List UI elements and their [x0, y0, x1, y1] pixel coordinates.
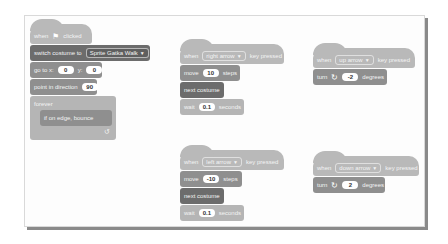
go-to-xy-block[interactable]: go to x: 0 y: 0 [30, 62, 102, 78]
loop-arrow-icon: ↺ [30, 126, 116, 138]
clicked-label: clicked [63, 33, 81, 39]
key-dropdown[interactable]: down arrow▼ [335, 163, 381, 173]
wait-label: wait [184, 210, 195, 216]
when-label: when [317, 165, 331, 171]
key-value: left arrow [206, 159, 231, 165]
costume-dropdown[interactable]: Sprite Gatka Walk▼ [86, 48, 149, 58]
wait-seconds-block[interactable]: wait 0.1 seconds [180, 99, 244, 115]
direction-input[interactable]: 90 [82, 83, 98, 91]
script-when-flag-clicked[interactable]: when ⚑ clicked switch costume to Sprite … [30, 24, 150, 140]
key-value: up arrow [339, 57, 362, 63]
chevron-down-icon: ▼ [233, 159, 238, 165]
when-label: when [317, 57, 331, 63]
costume-value: Sprite Gatka Walk [90, 50, 138, 56]
key-dropdown[interactable]: up arrow▼ [335, 55, 373, 65]
key-dropdown[interactable]: left arrow▼ [202, 157, 242, 167]
steps-label: steps [223, 176, 237, 182]
chevron-down-icon: ▼ [372, 165, 377, 171]
wait-seconds-block[interactable]: wait 0.1 seconds [180, 205, 244, 221]
when-key-pressed-block[interactable]: when up arrow▼ key pressed [313, 48, 415, 68]
move-label: move [184, 176, 199, 182]
steps-input[interactable]: 10 [203, 69, 219, 77]
key-value: down arrow [339, 165, 370, 171]
when-flag-clicked-block[interactable]: when ⚑ clicked [30, 24, 92, 44]
seconds-input[interactable]: 0.1 [199, 103, 215, 111]
script-right-arrow[interactable]: when right arrow▼ key pressed move 10 st… [180, 44, 284, 115]
move-steps-block[interactable]: move -10 steps [180, 171, 242, 187]
seconds-input[interactable]: 0.1 [199, 209, 215, 217]
green-flag-icon: ⚑ [52, 32, 59, 41]
next-costume-block[interactable]: next costume [180, 82, 224, 98]
rotate-clockwise-icon: ↻ [331, 181, 338, 190]
when-label: when [184, 53, 198, 59]
when-key-pressed-block[interactable]: when down arrow▼ key pressed [313, 156, 419, 176]
switch-costume-label: switch costume to [34, 50, 82, 56]
key-dropdown[interactable]: right arrow▼ [202, 51, 245, 61]
next-costume-label: next costume [184, 193, 220, 199]
next-costume-label: next costume [184, 87, 220, 93]
point-label: point in direction [34, 84, 78, 90]
seconds-label: seconds [219, 210, 241, 216]
degrees-input[interactable]: -2 [342, 73, 358, 81]
switch-costume-block[interactable]: switch costume to Sprite Gatka Walk▼ [30, 45, 150, 61]
y-label: y: [78, 67, 83, 73]
forever-label: forever [30, 98, 116, 110]
key-pressed-label: key pressed [385, 165, 417, 171]
rotate-clockwise-icon: ↻ [331, 73, 338, 82]
key-pressed-label: key pressed [250, 53, 282, 59]
turn-degrees-block[interactable]: turn ↻ 2 degrees [313, 177, 385, 193]
script-left-arrow[interactable]: when left arrow▼ key pressed move -10 st… [180, 150, 284, 221]
script-down-arrow[interactable]: when down arrow▼ key pressed turn ↻ 2 de… [313, 156, 419, 193]
seconds-label: seconds [219, 104, 241, 110]
turn-label: turn [317, 74, 327, 80]
when-key-pressed-block[interactable]: when left arrow▼ key pressed [180, 150, 284, 170]
key-value: right arrow [206, 53, 234, 59]
steps-input[interactable]: -10 [203, 175, 220, 183]
steps-label: steps [223, 70, 237, 76]
when-label: when [34, 33, 48, 39]
move-steps-block[interactable]: move 10 steps [180, 65, 240, 81]
x-input[interactable]: 0 [58, 66, 74, 74]
degrees-label: degrees [362, 74, 384, 80]
key-pressed-label: key pressed [378, 57, 410, 63]
move-label: move [184, 70, 199, 76]
forever-block[interactable]: forever if on edge, bounce ↺ [30, 96, 116, 140]
chevron-down-icon: ▼ [140, 50, 145, 56]
degrees-input[interactable]: 2 [342, 181, 358, 189]
degrees-label: degrees [362, 182, 384, 188]
next-costume-block[interactable]: next costume [180, 188, 224, 204]
when-key-pressed-block[interactable]: when right arrow▼ key pressed [180, 44, 284, 64]
bounce-label: if on edge, bounce [44, 115, 93, 121]
key-pressed-label: key pressed [246, 159, 278, 165]
when-label: when [184, 159, 198, 165]
if-on-edge-bounce-block[interactable]: if on edge, bounce [40, 110, 112, 126]
wait-label: wait [184, 104, 195, 110]
chevron-down-icon: ▼ [237, 53, 242, 59]
chevron-down-icon: ▼ [365, 57, 370, 63]
script-up-arrow[interactable]: when up arrow▼ key pressed turn ↻ -2 deg… [313, 48, 415, 85]
turn-label: turn [317, 182, 327, 188]
point-in-direction-block[interactable]: point in direction 90 [30, 79, 97, 95]
y-input[interactable]: 0 [86, 66, 102, 74]
go-to-x-label: go to x: [34, 67, 54, 73]
turn-degrees-block[interactable]: turn ↻ -2 degrees [313, 69, 387, 85]
